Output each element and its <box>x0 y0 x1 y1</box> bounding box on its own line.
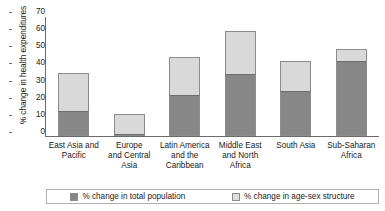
y-axis-tick-mark <box>9 63 12 64</box>
bar-segment-age-sex-structure[interactable] <box>280 61 311 92</box>
x-axis-category-label: Middle Eastand NorthAfrica <box>213 141 269 172</box>
y-axis-tick-mark <box>9 29 12 30</box>
bar-segment-total-population[interactable] <box>280 91 311 136</box>
bar-segment-age-sex-structure[interactable] <box>114 114 145 134</box>
bar-slot <box>268 17 324 136</box>
y-axis-tick-label: 50 <box>12 41 45 51</box>
x-axis-labels: East Asia andPacificEuropeand CentralAsi… <box>46 141 379 172</box>
bar-segment-total-population[interactable] <box>58 111 89 136</box>
bar-segment-total-population[interactable] <box>336 61 367 136</box>
bar-segment-total-population[interactable] <box>114 134 145 136</box>
x-axis-category-label: Europeand CentralAsia <box>102 141 158 172</box>
legend-swatch-dark <box>70 193 78 201</box>
x-axis-category-label: South Asia <box>268 141 324 172</box>
bar-stack[interactable] <box>114 114 145 136</box>
bar-segment-age-sex-structure[interactable] <box>58 73 89 112</box>
plot-area: 010203040506070 <box>45 17 379 137</box>
x-axis-category-label: East Asia andPacific <box>46 141 102 172</box>
y-axis-tick-mark <box>9 81 12 82</box>
bar-slot <box>157 17 213 136</box>
y-axis-tick-label: 30 <box>12 76 45 86</box>
bar-stack[interactable] <box>280 61 311 136</box>
x-axis-category-label: Sub-SaharanAfrica <box>324 141 380 172</box>
bar-slot <box>46 17 102 136</box>
bar-segment-age-sex-structure[interactable] <box>336 49 367 61</box>
legend-entry: % change in total population <box>70 192 185 201</box>
y-axis-tick-label: 10 <box>12 110 45 120</box>
y-axis-tick-label: 60 <box>12 24 45 34</box>
y-axis-tick-label: 40 <box>12 58 45 68</box>
bar-slot <box>213 17 269 136</box>
stacked-bar-chart: % change in health expenditures 01020304… <box>0 0 385 211</box>
bar-stack[interactable] <box>169 57 200 136</box>
y-axis-tick-mark <box>9 12 12 13</box>
bar-slot <box>102 17 158 136</box>
legend-label: % change in total population <box>82 192 185 201</box>
bar-stack[interactable] <box>225 31 256 136</box>
y-axis-tick-mark <box>9 115 12 116</box>
bar-slot <box>324 17 380 136</box>
y-axis-tick-mark <box>9 132 12 133</box>
bar-segment-age-sex-structure[interactable] <box>225 31 256 74</box>
bar-segment-age-sex-structure[interactable] <box>169 57 200 95</box>
bar-group <box>46 17 379 136</box>
y-axis-tick-label: 70 <box>12 7 45 17</box>
y-axis-tick-label: 20 <box>12 93 45 103</box>
bar-stack[interactable] <box>58 73 89 136</box>
bar-stack[interactable] <box>336 49 367 136</box>
x-axis-category-label: Latin Americaand theCaribbean <box>157 141 213 172</box>
y-axis-tick-mark <box>9 46 12 47</box>
bar-segment-total-population[interactable] <box>169 95 200 136</box>
legend-swatch-light <box>232 193 240 201</box>
x-axis-line <box>45 136 379 137</box>
legend-entry: % change in age-sex structure <box>232 192 355 201</box>
chart-legend: % change in total population% change in … <box>46 189 379 204</box>
y-axis-tick-mark <box>9 98 12 99</box>
bar-segment-total-population[interactable] <box>225 74 256 136</box>
legend-label: % change in age-sex structure <box>244 192 355 201</box>
y-axis-tick-label: 0 <box>12 127 45 137</box>
